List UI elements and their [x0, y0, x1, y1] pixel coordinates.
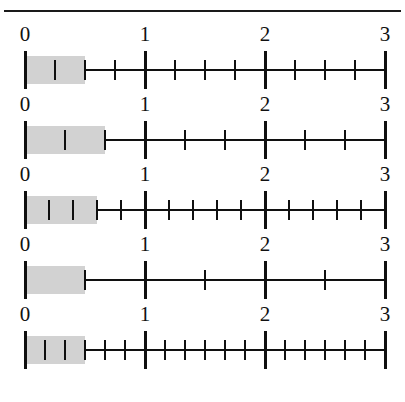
tick-label: 3: [374, 234, 396, 255]
minor-tick: [244, 340, 246, 360]
tick-label: 1: [134, 94, 156, 115]
major-tick: [384, 191, 387, 229]
minor-tick: [184, 130, 186, 150]
minor-tick: [84, 60, 86, 80]
minor-tick: [234, 60, 236, 80]
minor-tick: [184, 340, 186, 360]
number-line-row: 0123: [0, 232, 405, 302]
major-tick: [24, 191, 27, 229]
tick-label: 2: [254, 234, 276, 255]
tick-label: 2: [254, 94, 276, 115]
minor-tick: [114, 60, 116, 80]
minor-tick: [104, 340, 106, 360]
minor-tick: [204, 270, 206, 290]
major-tick: [384, 51, 387, 89]
tick-label: 3: [374, 304, 396, 325]
major-tick: [144, 261, 147, 299]
major-tick: [144, 121, 147, 159]
minor-tick: [240, 200, 242, 220]
minor-tick: [44, 340, 46, 360]
tick-label: 0: [14, 24, 36, 45]
minor-tick: [204, 60, 206, 80]
minor-tick: [216, 200, 218, 220]
number-line-list: 01230123012301230123: [0, 22, 405, 372]
major-tick: [144, 51, 147, 89]
number-line-row: 0123: [0, 302, 405, 372]
minor-tick: [224, 340, 226, 360]
tick-label: 2: [254, 304, 276, 325]
minor-tick: [48, 200, 50, 220]
tick-label: 1: [134, 24, 156, 45]
minor-tick: [304, 130, 306, 150]
minor-tick: [84, 270, 86, 290]
minor-tick: [204, 340, 206, 360]
tick-label: 0: [14, 234, 36, 255]
minor-tick: [294, 60, 296, 80]
major-tick: [264, 261, 267, 299]
minor-tick: [364, 340, 366, 360]
minor-tick: [288, 200, 290, 220]
major-tick: [144, 191, 147, 229]
minor-tick: [174, 60, 176, 80]
minor-tick: [344, 130, 346, 150]
minor-tick: [124, 340, 126, 360]
minor-tick: [64, 130, 66, 150]
major-tick: [384, 261, 387, 299]
worksheet-page: 01230123012301230123: [0, 0, 405, 402]
minor-tick: [72, 200, 74, 220]
minor-tick: [164, 340, 166, 360]
minor-tick: [360, 200, 362, 220]
minor-tick: [354, 60, 356, 80]
tick-label: 0: [14, 164, 36, 185]
top-divider-rule: [4, 10, 401, 12]
minor-tick: [284, 340, 286, 360]
minor-tick: [168, 200, 170, 220]
major-tick: [264, 51, 267, 89]
tick-label: 3: [374, 24, 396, 45]
tick-label: 1: [134, 304, 156, 325]
number-line-row: 0123: [0, 92, 405, 162]
shaded-region: [25, 266, 85, 294]
minor-tick: [324, 340, 326, 360]
number-line-row: 0123: [0, 162, 405, 232]
major-tick: [384, 121, 387, 159]
minor-tick: [304, 340, 306, 360]
minor-tick: [64, 340, 66, 360]
shaded-region: [25, 196, 97, 224]
shaded-region: [25, 336, 85, 364]
minor-tick: [120, 200, 122, 220]
number-line-row: 0123: [0, 22, 405, 92]
minor-tick: [344, 340, 346, 360]
tick-label: 1: [134, 164, 156, 185]
tick-label: 1: [134, 234, 156, 255]
major-tick: [264, 191, 267, 229]
major-tick: [24, 121, 27, 159]
minor-tick: [336, 200, 338, 220]
minor-tick: [224, 130, 226, 150]
major-tick: [24, 261, 27, 299]
tick-label: 3: [374, 94, 396, 115]
minor-tick: [54, 60, 56, 80]
minor-tick: [324, 270, 326, 290]
minor-tick: [104, 130, 106, 150]
tick-label: 3: [374, 164, 396, 185]
tick-label: 0: [14, 94, 36, 115]
tick-label: 2: [254, 24, 276, 45]
tick-label: 2: [254, 164, 276, 185]
minor-tick: [312, 200, 314, 220]
minor-tick: [84, 340, 86, 360]
major-tick: [24, 51, 27, 89]
major-tick: [144, 331, 147, 369]
major-tick: [264, 121, 267, 159]
major-tick: [264, 331, 267, 369]
minor-tick: [96, 200, 98, 220]
major-tick: [24, 331, 27, 369]
minor-tick: [324, 60, 326, 80]
minor-tick: [192, 200, 194, 220]
tick-label: 0: [14, 304, 36, 325]
major-tick: [384, 331, 387, 369]
